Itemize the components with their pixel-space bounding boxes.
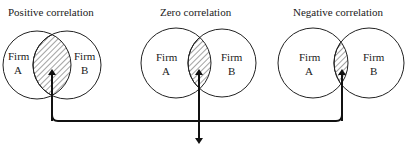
firm-b-letter: B	[228, 65, 235, 77]
panel-title: Positive correlation	[8, 6, 94, 18]
firm-a-letter: A	[14, 64, 22, 76]
firm-b-label: Firm	[74, 50, 96, 62]
firm-b-letter: B	[81, 64, 88, 76]
panel-title: Zero correlation	[160, 6, 232, 18]
correlation-venn-diagram: Positive correlation Firm A Firm B Zero …	[0, 0, 405, 151]
firm-a-letter: A	[305, 65, 313, 77]
firm-b-label: Firm	[363, 51, 385, 63]
firm-a-letter: A	[162, 65, 170, 77]
firm-b-label: Firm	[221, 51, 243, 63]
firm-a-label: Firm	[299, 51, 321, 63]
firm-a-label: Firm	[156, 51, 178, 63]
firm-b-letter: B	[370, 65, 377, 77]
firm-a-label: Firm	[8, 50, 30, 62]
panel-title: Negative correlation	[293, 6, 384, 18]
